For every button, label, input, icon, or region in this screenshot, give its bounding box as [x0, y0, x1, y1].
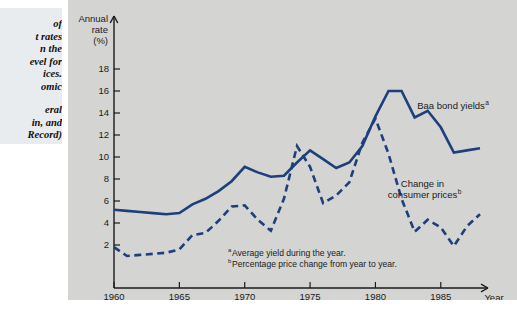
- y-axis-tick-labels: 24681012141618: [98, 63, 109, 250]
- series-group: [114, 91, 480, 256]
- figure-caption-block: of t rates n the evel for ices. omic era…: [0, 8, 62, 144]
- series-label-cpi-superscript: b: [458, 188, 462, 195]
- y-tick-label-6: 6: [104, 195, 109, 206]
- line-chart: 24681012141618 Annual rate (%) 196019651…: [68, 0, 517, 300]
- y-tick-label-16: 16: [98, 85, 109, 96]
- y-axis: 24681012141618 Annual rate (%): [78, 13, 120, 288]
- y-tick-label-18: 18: [98, 63, 109, 74]
- y-tick-label-4: 4: [104, 217, 109, 228]
- footnotes: a Average yield during the year. b Perce…: [228, 247, 397, 269]
- y-tick-label-12: 12: [98, 129, 109, 140]
- y-tick-label-8: 8: [104, 173, 109, 184]
- y-axis-title-line-2: (%): [93, 35, 108, 46]
- caption-body-text: of t rates n the evel for ices. omic: [0, 18, 62, 94]
- footnote-b-text: Percentage price change from year to yea…: [232, 259, 397, 269]
- x-axis-title: Year: [484, 292, 503, 300]
- series-label-cpi-line-0: Change in: [401, 178, 444, 189]
- series-label-baa-superscript: a: [485, 99, 489, 106]
- y-tick-label-2: 2: [104, 239, 109, 250]
- y-axis-title: Annual rate (%): [78, 13, 108, 46]
- series-label-baa-bond-yields: Baa bond yields a: [417, 99, 489, 111]
- series-label-cpi-line-1: consumer prices: [388, 189, 458, 200]
- y-axis-ticks: [114, 69, 120, 245]
- x-tick-label-1960: 1960: [103, 291, 124, 300]
- series-label-baa-text: Baa bond yields: [417, 100, 485, 111]
- y-tick-label-10: 10: [98, 151, 109, 162]
- x-tick-label-1965: 1965: [169, 291, 190, 300]
- y-axis-title-line-0: Annual: [78, 13, 108, 24]
- caption-source-text: eral in, and Record): [0, 104, 62, 142]
- x-axis: 196019651970197519801985 Year: [103, 282, 503, 300]
- x-tick-label-1970: 1970: [234, 291, 255, 300]
- x-tick-label-1980: 1980: [365, 291, 386, 300]
- series-label-consumer-prices: Change in consumer prices b: [388, 178, 462, 200]
- footnote-a-text: Average yield during the year.: [232, 248, 346, 258]
- y-tick-label-14: 14: [98, 107, 109, 118]
- x-axis-ticks: [114, 282, 441, 288]
- x-tick-label-1985: 1985: [430, 291, 451, 300]
- y-axis-title-line-1: rate: [92, 24, 108, 35]
- x-axis-tick-labels: 196019651970197519801985: [103, 291, 451, 300]
- chart-panel: 24681012141618 Annual rate (%) 196019651…: [68, 0, 517, 300]
- x-tick-label-1975: 1975: [300, 291, 321, 300]
